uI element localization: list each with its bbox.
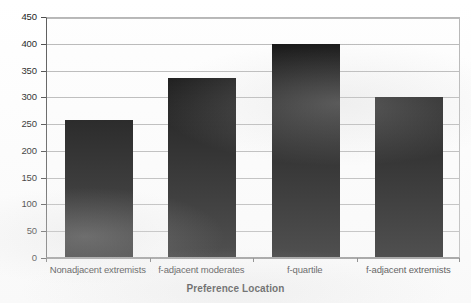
x-tick-mark [46,258,47,262]
x-tick-label: Nonadjacent extremists [46,264,150,275]
y-tick-label-100: 100 [21,199,37,209]
bar [272,44,340,257]
x-tick-mark [459,258,460,262]
plot-area [46,17,460,258]
x-tick-mark [150,258,151,262]
bar-chart: 050100150200250300350400450 Nonadjacent … [0,0,471,303]
y-tick-label-400: 400 [21,39,37,49]
x-tick-mark [253,258,254,262]
y-tick-label-50: 50 [27,226,37,236]
y-tick-label-450: 450 [21,12,37,22]
bar [65,120,133,257]
x-tick-label: f-adjacent extremists [357,264,461,275]
y-tick-label-250: 250 [21,119,37,129]
y-axis: 050100150200250300350400450 [0,17,46,258]
y-tick-label-0: 0 [32,253,37,263]
x-tick-mark [357,258,358,262]
y-tick-label-350: 350 [21,66,37,76]
bar [375,97,443,257]
y-tick-label-150: 150 [21,173,37,183]
bar [168,78,236,257]
x-axis: Nonadjacent extremistsf-adjacent moderat… [46,258,460,282]
y-tick-label-200: 200 [21,146,37,156]
bar-series [47,18,459,257]
y-tick-label-300: 300 [21,92,37,102]
x-tick-label: f-quartile [253,264,357,275]
x-axis-title: Preference Location [0,283,471,294]
x-tick-label: f-adjacent moderates [150,264,254,275]
